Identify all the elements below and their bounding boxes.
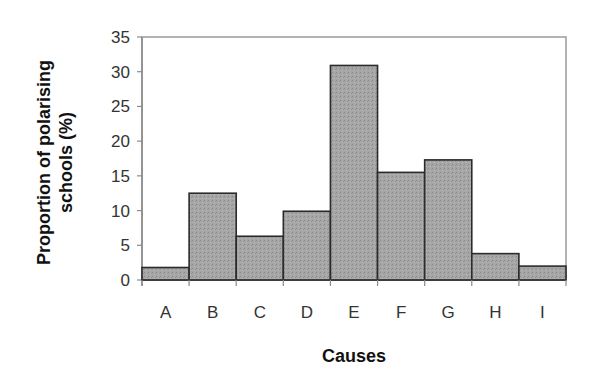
bar-h: [472, 254, 519, 280]
bar-a: [142, 268, 189, 280]
bar-d: [283, 211, 330, 280]
y-tick-label: 30: [111, 63, 130, 82]
x-tick-label: G: [442, 303, 455, 322]
x-tick-label: F: [396, 303, 406, 322]
x-tick-label: D: [301, 303, 313, 322]
y-tick-label: 25: [111, 97, 130, 116]
x-tick-label: H: [489, 303, 501, 322]
bars: [142, 65, 566, 280]
x-axis: ABCDEFGHI: [142, 280, 566, 322]
x-tick-label: B: [207, 303, 218, 322]
y-tick-label: 20: [111, 132, 130, 151]
x-tick-label: E: [348, 303, 359, 322]
y-axis-title: Proportion of polarisingschools (%): [34, 60, 76, 265]
histogram-chart: 05101520253035 ABCDEFGHI Proportion of p…: [0, 0, 597, 384]
x-tick-label: C: [254, 303, 266, 322]
x-axis-title: Causes: [322, 346, 386, 366]
y-tick-label: 10: [111, 202, 130, 221]
bar-f: [378, 172, 425, 280]
bar-i: [519, 266, 566, 280]
y-tick-label: 35: [111, 28, 130, 47]
y-axis-title-line: Proportion of polarising: [34, 60, 54, 265]
y-axis-title-line: schools (%): [56, 112, 76, 213]
bar-b: [189, 193, 236, 280]
x-tick-label: A: [160, 303, 172, 322]
x-tick-label: I: [540, 303, 545, 322]
y-tick-label: 0: [121, 271, 130, 290]
bar-e: [330, 65, 377, 280]
y-tick-label: 15: [111, 167, 130, 186]
bar-g: [425, 160, 472, 280]
y-tick-label: 5: [121, 236, 130, 255]
bar-c: [236, 236, 283, 280]
y-axis: 05101520253035: [111, 28, 142, 290]
